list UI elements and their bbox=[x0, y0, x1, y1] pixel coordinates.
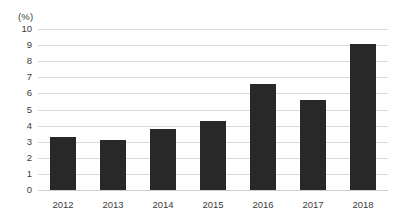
y-axis-tick-label: 10 bbox=[21, 24, 32, 34]
bar bbox=[300, 100, 326, 190]
x-axis-tick-label: 2017 bbox=[302, 200, 323, 210]
x-axis-tick-label: 2012 bbox=[52, 200, 73, 210]
x-axis-tick-label: 2013 bbox=[102, 200, 123, 210]
gridline bbox=[38, 190, 388, 191]
x-axis-tick-label: 2016 bbox=[252, 200, 273, 210]
y-axis-tick-label: 7 bbox=[27, 73, 32, 83]
y-axis-tick-label: 0 bbox=[27, 185, 32, 195]
bar-chart: (%) 012345678910 20122013201420152016201… bbox=[0, 0, 401, 222]
bar bbox=[50, 137, 76, 190]
y-axis-tick-label: 4 bbox=[27, 121, 32, 131]
x-axis-tick-label: 2015 bbox=[202, 200, 223, 210]
bar bbox=[250, 84, 276, 190]
y-axis-tick-label: 3 bbox=[27, 137, 32, 147]
bar bbox=[200, 121, 226, 190]
plot-area: 012345678910 201220132014201520162017201… bbox=[38, 29, 388, 190]
x-axis-tick-label: 2018 bbox=[352, 200, 373, 210]
x-axis-tick-label: 2014 bbox=[152, 200, 173, 210]
y-axis-tick-label: 6 bbox=[27, 89, 32, 99]
bar bbox=[100, 140, 126, 190]
bar bbox=[150, 129, 176, 190]
bar bbox=[350, 44, 376, 191]
bar-series bbox=[38, 29, 388, 190]
y-axis-tick-label: 9 bbox=[27, 40, 32, 50]
y-axis-unit-label: (%) bbox=[18, 12, 33, 22]
y-axis-tick-label: 8 bbox=[27, 56, 32, 66]
y-axis-tick-label: 1 bbox=[27, 169, 32, 179]
y-axis-tick-label: 2 bbox=[27, 153, 32, 163]
y-axis-tick-label: 5 bbox=[27, 105, 32, 115]
